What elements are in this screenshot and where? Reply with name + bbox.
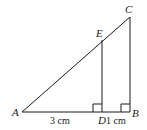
measurement-db: 1 cm bbox=[106, 115, 126, 126]
segment-ac bbox=[22, 17, 130, 112]
point-label-d: D bbox=[97, 114, 106, 126]
diagram-canvas: A B C E D 3 cm 1 cm bbox=[0, 0, 147, 130]
point-label-e: E bbox=[95, 27, 103, 39]
point-label-c: C bbox=[125, 3, 133, 15]
point-label-a: A bbox=[11, 106, 19, 118]
measurement-ad: 3 cm bbox=[50, 115, 70, 126]
right-angle-marker-b bbox=[121, 104, 130, 112]
right-angle-marker-d bbox=[93, 104, 102, 112]
triangle-diagram: A B C E D 3 cm 1 cm bbox=[0, 0, 147, 130]
point-label-b: B bbox=[132, 107, 139, 119]
